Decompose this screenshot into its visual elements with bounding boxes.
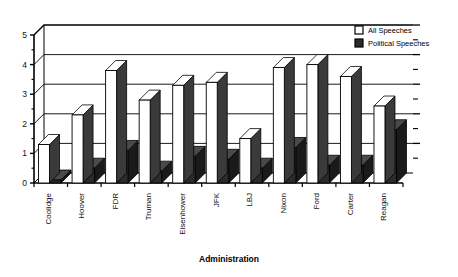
y-tick-label-5: 5 — [22, 30, 27, 40]
chart-canvas: 012345CoolidgeHooverFDRTrumanEisenhowerJ… — [0, 0, 458, 277]
x-category-label-lbj: LBJ — [245, 193, 254, 207]
bar-chart: 012345CoolidgeHooverFDRTrumanEisenhowerJ… — [0, 0, 458, 277]
x-category-label-eisenhower: Eisenhower — [178, 193, 187, 235]
bar-fdr-all — [106, 61, 127, 183]
legend-swatch-all-speeches — [355, 26, 363, 34]
legend-label-political-speeches: Political Speeches — [368, 39, 430, 48]
bar-nixon-all — [273, 58, 294, 183]
bar-coolidge-all — [39, 135, 60, 183]
x-category-label-coolidge: Coolidge — [44, 192, 53, 224]
y-tick-label-2: 2 — [22, 119, 27, 129]
bar-ford-all — [307, 55, 328, 183]
x-category-label-ford: Ford — [312, 193, 321, 209]
legend-label-all-speeches: All Speeches — [368, 26, 412, 35]
bar-reagan-all — [374, 96, 395, 183]
x-category-label-fdr: FDR — [111, 193, 120, 210]
y-tick-label-1: 1 — [22, 148, 27, 158]
y-tick-label-3: 3 — [22, 89, 27, 99]
bar-lbj-all — [240, 129, 261, 183]
x-category-label-hoover: Hoover — [77, 193, 86, 219]
legend-swatch-political-speeches — [355, 39, 363, 47]
bar-hoover-all — [72, 105, 93, 183]
bar-jfk-all — [206, 72, 227, 183]
bar-truman-all — [139, 90, 160, 183]
x-axis-title: Administration — [199, 254, 259, 264]
x-category-label-carter: Carter — [346, 193, 355, 216]
x-category-label-truman: Truman — [144, 193, 153, 220]
y-tick-label-4: 4 — [22, 60, 27, 70]
gridline-y-4 — [34, 55, 413, 65]
x-category-label-reagan: Reagan — [379, 193, 388, 221]
x-category-label-jfk: JFK — [212, 192, 221, 207]
y-tick-label-0: 0 — [22, 178, 27, 188]
bar-eisenhower-all — [173, 75, 194, 183]
x-category-label-nixon: Nixon — [279, 193, 288, 213]
bar-carter-all — [340, 66, 361, 183]
